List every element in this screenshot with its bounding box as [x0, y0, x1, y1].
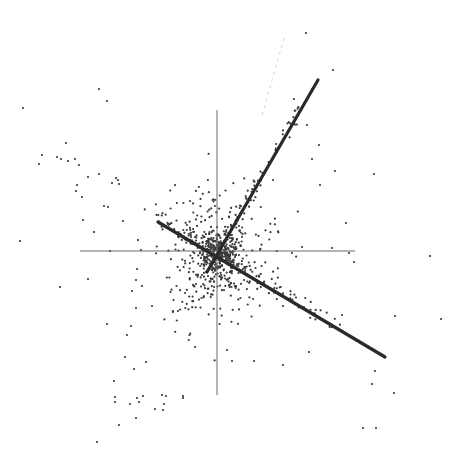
data-point [282, 364, 284, 366]
data-point [200, 221, 202, 223]
data-point [227, 226, 229, 228]
data-point [295, 256, 297, 258]
data-point [118, 424, 120, 426]
data-point [232, 182, 234, 184]
data-point [38, 163, 40, 165]
data-point [189, 262, 191, 264]
data-point [82, 219, 84, 221]
data-point [162, 409, 164, 411]
data-point [250, 269, 252, 271]
data-point [214, 205, 216, 207]
data-point [202, 241, 204, 243]
data-point [204, 219, 206, 221]
data-point [207, 275, 209, 277]
data-point [254, 196, 256, 198]
data-point [204, 279, 206, 281]
data-point [310, 301, 312, 303]
data-point [259, 184, 261, 186]
data-point [223, 289, 225, 291]
data-point [168, 224, 170, 226]
data-point [186, 229, 188, 231]
data-point [229, 237, 231, 239]
data-point [186, 289, 188, 291]
data-point [208, 313, 210, 315]
data-point [174, 184, 176, 186]
data-point [341, 314, 343, 316]
data-point [213, 276, 215, 278]
data-point [261, 265, 263, 267]
data-point [174, 248, 176, 250]
data-point [22, 107, 24, 109]
data-point [231, 260, 233, 262]
data-point [219, 194, 221, 196]
data-point [182, 397, 184, 399]
data-point [264, 261, 266, 263]
data-point [236, 239, 238, 241]
data-point [196, 214, 198, 216]
data-point [107, 206, 109, 208]
data-point [297, 211, 299, 213]
data-point [211, 215, 213, 217]
data-point [208, 153, 210, 155]
data-point [195, 218, 197, 220]
data-point [291, 252, 293, 254]
data-point [320, 309, 322, 311]
data-point [276, 287, 278, 289]
data-point [98, 173, 100, 175]
data-point [189, 267, 191, 269]
data-point [113, 380, 115, 382]
data-point [238, 225, 240, 227]
data-point [221, 315, 223, 317]
data-point [219, 285, 221, 287]
data-point [195, 291, 197, 293]
data-point [274, 283, 276, 285]
data-point [201, 274, 203, 276]
data-point [240, 283, 242, 285]
data-point [252, 298, 254, 300]
data-point [111, 182, 113, 184]
data-point [210, 207, 212, 209]
data-point [207, 210, 209, 212]
data-point [188, 296, 190, 298]
data-point [205, 243, 207, 245]
data-point [106, 323, 108, 325]
data-point [135, 279, 137, 281]
data-point [211, 285, 213, 287]
data-point [234, 254, 236, 256]
data-point [208, 246, 210, 248]
data-point [226, 243, 228, 245]
data-point [274, 223, 276, 225]
data-point [183, 232, 185, 234]
data-point [199, 307, 201, 309]
data-point [237, 298, 239, 300]
data-point [226, 272, 228, 274]
data-point [230, 295, 232, 297]
data-point [247, 190, 249, 192]
data-point [219, 265, 221, 267]
scatter-plot [0, 0, 450, 471]
data-point [170, 258, 172, 260]
data-point [289, 136, 291, 138]
data-point [240, 231, 242, 233]
data-point [138, 401, 140, 403]
data-point [98, 88, 100, 90]
data-point [260, 286, 262, 288]
data-point [255, 275, 257, 277]
data-point [239, 229, 241, 231]
data-point [235, 226, 237, 228]
data-point [241, 263, 243, 265]
data-point [200, 285, 202, 287]
data-point [375, 427, 377, 429]
data-point [213, 286, 215, 288]
data-point [198, 186, 200, 188]
data-point [151, 305, 153, 307]
data-point [170, 289, 172, 291]
data-point [256, 190, 258, 192]
data-point [163, 318, 165, 320]
data-point [161, 212, 163, 214]
data-point [242, 218, 244, 220]
data-point [248, 296, 250, 298]
data-point [189, 221, 191, 223]
data-point [197, 274, 199, 276]
data-point [208, 231, 210, 233]
